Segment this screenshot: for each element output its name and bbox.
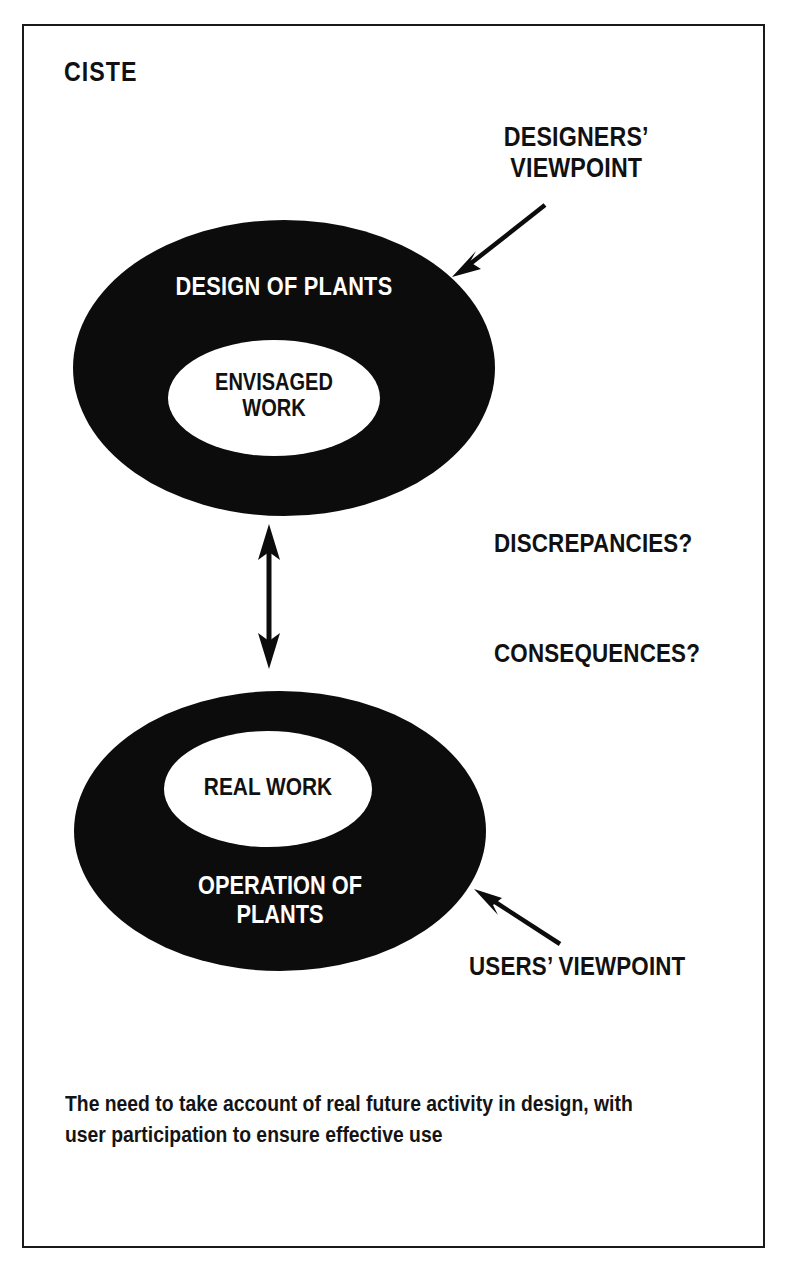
operation-of-plants-label: OPERATION OF PLANTS (106, 871, 454, 928)
page-title: CISTE (64, 57, 138, 88)
designers-viewpoint-label: DESIGNERS’ VIEWPOINT (504, 122, 649, 185)
double-headed-arrow-icon (258, 524, 280, 669)
designers-viewpoint-line1: DESIGNERS’ (504, 122, 649, 153)
caption-line1: The need to take account of real future … (65, 1092, 633, 1116)
bottom-ellipse-group (74, 691, 486, 971)
operation-of-plants-line2: PLANTS (106, 900, 454, 929)
diagram-page: CISTE DESIGNERS’ VIEWPOINT DISCREPANCIES… (0, 0, 791, 1270)
consequences-label: CONSEQUENCES? (494, 638, 700, 668)
envisaged-work-line2: WORK (187, 395, 361, 421)
designers-viewpoint-arrow-icon (452, 205, 545, 277)
diagram-canvas (0, 0, 791, 1270)
figure-caption: The need to take account of real future … (65, 1089, 641, 1150)
users-viewpoint-arrow-icon (474, 889, 560, 944)
envisaged-work-line1: ENVISAGED (187, 369, 361, 395)
real-work-label: REAL WORK (181, 773, 355, 800)
operation-of-plants-line1: OPERATION OF (106, 871, 454, 900)
caption-line2: user participation to ensure effective u… (65, 1123, 442, 1147)
discrepancies-label: DISCREPANCIES? (494, 528, 692, 558)
users-viewpoint-label: USERS’ VIEWPOINT (469, 951, 685, 981)
top-ellipse-group (73, 220, 495, 516)
envisaged-work-label: ENVISAGED WORK (187, 369, 361, 421)
designers-viewpoint-line2: VIEWPOINT (504, 153, 649, 184)
design-of-plants-label: DESIGN OF PLANTS (110, 272, 458, 301)
